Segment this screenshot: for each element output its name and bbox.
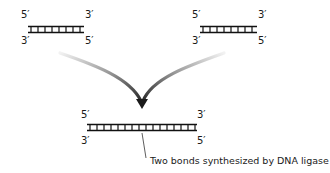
dna-ligation-diagram (0, 0, 330, 173)
right-fragment-ladder (200, 27, 257, 33)
annotation-leader-line (142, 133, 146, 158)
joined-fragment-ladder (87, 125, 197, 131)
left-fragment-ladder (28, 27, 84, 33)
converging-arrow (60, 53, 224, 109)
arrowhead-icon (136, 99, 148, 109)
